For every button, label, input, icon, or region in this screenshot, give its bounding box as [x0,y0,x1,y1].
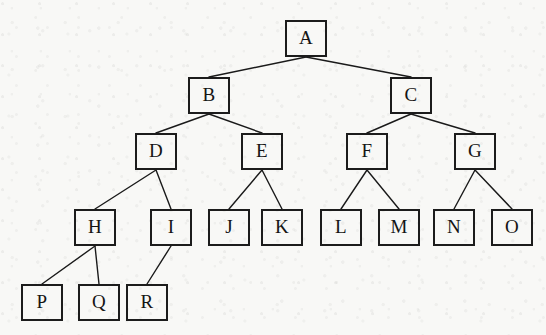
tree-node-label: H [88,217,102,236]
tree-edge-h-p [42,246,95,284]
tree-node-label: J [225,217,233,236]
tree-edge-a-c [306,57,411,77]
tree-node-r[interactable]: R [126,284,168,321]
tree-edge-d-i [156,170,171,209]
tree-node-label: P [37,292,48,311]
tree-node-label: L [335,217,347,236]
tree-node-j[interactable]: J [208,209,250,246]
tree-node-label: N [447,217,461,236]
tree-node-e[interactable]: E [241,133,283,170]
tree-node-label: C [405,85,418,104]
tree-edge-g-n [454,170,475,209]
tree-node-label: O [505,217,519,236]
tree-node-l[interactable]: L [320,209,362,246]
tree-edge-b-e [209,114,262,133]
tree-edge-a-b [209,57,306,77]
tree-edge-c-g [411,114,475,133]
tree-node-label: E [256,141,268,160]
tree-edge-e-k [262,170,282,209]
tree-node-label: R [141,292,154,311]
tree-node-a[interactable]: A [285,20,327,57]
tree-node-q[interactable]: Q [78,284,120,321]
tree-edge-b-d [156,114,209,133]
tree-node-label: A [299,28,313,47]
tree-diagram: ABCDEFGHIJKLMNOPQR [0,0,546,335]
tree-node-label: Q [92,292,106,311]
tree-edge-d-h [95,170,156,209]
tree-node-k[interactable]: K [261,209,303,246]
tree-edge-f-l [341,170,367,209]
tree-node-n[interactable]: N [433,209,475,246]
tree-node-d[interactable]: D [135,133,177,170]
tree-edge-g-o [475,170,512,209]
tree-edge-i-r [147,246,171,284]
tree-node-label: D [149,141,163,160]
tree-node-label: G [468,141,482,160]
tree-edge-f-m [367,170,399,209]
tree-node-o[interactable]: O [491,209,533,246]
tree-node-b[interactable]: B [188,77,230,114]
tree-node-m[interactable]: M [378,209,420,246]
tree-node-label: M [390,217,407,236]
tree-node-label: F [362,141,373,160]
tree-node-i[interactable]: I [150,209,192,246]
tree-node-c[interactable]: C [390,77,432,114]
tree-edge-e-j [229,170,262,209]
tree-node-label: K [275,217,289,236]
tree-node-g[interactable]: G [454,133,496,170]
tree-node-f[interactable]: F [346,133,388,170]
tree-edge-c-f [367,114,411,133]
tree-node-label: B [203,85,216,104]
tree-edge-h-q [95,246,99,284]
tree-node-label: I [168,217,175,236]
tree-node-p[interactable]: P [21,284,63,321]
tree-node-h[interactable]: H [74,209,116,246]
